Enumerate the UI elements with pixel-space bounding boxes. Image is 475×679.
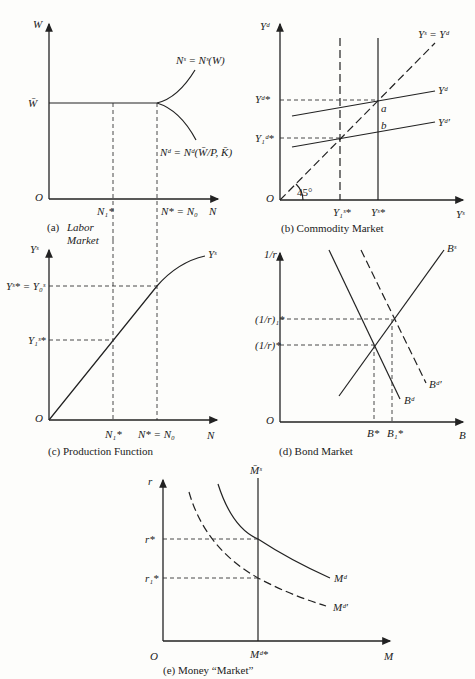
origin-label: O [266,414,274,426]
panel-d-bond-market: 1/r O Bˢ Bᵈ Bᵈ′ (1/r)₁* (1/r)* B* B₁* B … [255,242,466,458]
labor-supply-curve [157,70,195,103]
x-tick-n1: N₁* [96,205,114,217]
bond-demand-line [329,250,400,399]
x-axis-label: N [208,205,217,217]
demand-label: Yᵈ [438,84,448,96]
demand2-label: Mᵈ′ [332,601,349,613]
y-tick-y1s: Y₁ˢ* [28,334,46,346]
caption-line1: Labor [66,221,95,233]
x-tick-y1s: Y₁ˢ* [333,206,351,218]
y-axis-label: Yˢ [30,243,39,255]
x-tick-n0: N* = N₀ [137,428,175,440]
x-tick-md: Mᵈ* [249,648,269,660]
panel-e-money-market: r O M̄ˢ Mᵈ Mᵈ′ r* r₁* Mᵈ* M (e) Money “M… [145,464,394,677]
x-tick-b1: B₁* [387,427,404,439]
demand-line [292,91,435,116]
bond-supply-line [339,250,444,396]
y-axis-label: W [33,18,43,30]
production-curve [49,256,205,420]
y-tick-r: r* [145,533,155,545]
panel-a-labor-market: W O W̄ Nˢ = Nˢ(W) Nᵈ = Nᵈ(W̄/P, K̄) N₁* … [28,18,232,420]
x-axis-label: B [459,429,466,441]
origin-label: O [266,192,274,204]
y-axis-label: 1/r [264,248,278,260]
origin-label: O [35,412,43,424]
y-tick-r1: r₁* [145,572,159,584]
y-axis-label: Yᵈ [260,20,270,32]
point-b: b [381,119,387,131]
45-line-label: Yˢ = Yᵈ [418,28,449,40]
x-axis-label: M [383,650,394,662]
y-tick-inv-r1: (1/r)₁* [255,313,285,326]
bond-demand2-line [361,250,426,383]
caption: (b) Commodity Market [281,222,384,235]
panel-b-commodity-market: Yᵈ O Yˢ = Yᵈ 45° Yᵈ Yᵈ′ a b Yᵈ* Y₁ᵈ* Y₁ˢ… [255,20,465,235]
demand2-line [292,122,435,147]
y-tick-inv-r: (1/r)* [255,339,281,352]
y-tick-yd1: Y₁ᵈ* [255,132,274,144]
y-tick-yd: Yᵈ* [255,93,271,105]
x-axis-label: N [206,429,215,441]
caption-letter: (a) [47,221,60,234]
demand-label: Bᵈ [404,394,415,406]
y-tick-ys: Yˢ* = Y₀ˢ [6,280,46,292]
demand2-label: Bᵈ′ [429,378,442,390]
wage-level-label: W̄ [28,97,38,109]
angle-label: 45° [297,186,312,198]
caption: (d) Bond Market [279,445,353,458]
x-tick-b: B* [367,427,380,439]
x-tick-n0: N* = N₀ [160,205,198,217]
demand-label: Mᵈ [333,572,347,584]
labor-supply-label: Nˢ = Nˢ(W) [175,54,225,67]
money-demand-curve [218,484,330,578]
x-tick-n1: N₁* [104,428,122,440]
origin-label: O [150,650,158,662]
caption-line2: Market [66,234,100,246]
x-axis-label: Yˢ [456,208,465,220]
caption: (c) Production Function [48,445,154,458]
45-degree-line [280,43,435,200]
labor-demand-label: Nᵈ = Nᵈ(W̄/P, K̄) [159,146,232,159]
point-a: a [381,102,387,114]
origin-label: O [35,191,43,203]
curve-label: Yˢ [208,248,217,260]
supply-label: Bˢ [447,242,457,254]
demand2-label: Yᵈ′ [438,116,451,128]
panel-c-production-function: Yˢ O Yˢ Yˢ* = Y₀ˢ Y₁ˢ* N₁* N* = N₀ N (c)… [6,240,217,458]
labor-demand-curve [157,103,196,140]
caption: (e) Money “Market” [163,664,254,677]
y-axis-label: r [148,475,153,487]
x-tick-ys: Yˢ* [371,206,385,218]
supply-label: M̄ˢ [249,464,262,476]
macro-model-diagram: W O W̄ Nˢ = Nˢ(W) Nᵈ = Nᵈ(W̄/P, K̄) N₁* … [0,0,475,679]
